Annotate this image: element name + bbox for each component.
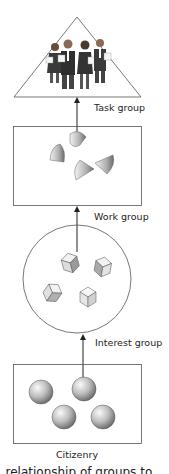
work-group: Work group: [14, 127, 149, 223]
task-group-label: Task group: [93, 102, 145, 113]
task-group-triangle: [14, 17, 141, 97]
citizenry-box: [14, 365, 142, 444]
interest-group: Interest group: [23, 225, 162, 348]
cube-icon: [40, 251, 112, 307]
people-icon: [46, 39, 111, 89]
group-hierarchy-diagram: Task group Work group: [0, 0, 169, 474]
sphere-icon: [29, 377, 115, 429]
interest-group-label: Interest group: [95, 337, 162, 348]
task-group: Task group: [14, 17, 145, 113]
work-group-label: Work group: [94, 211, 149, 222]
cone-icon: [50, 132, 114, 180]
figure-caption-clipped: relationship of groups to...: [0, 463, 169, 474]
citizenry: Citizenry: [14, 365, 142, 461]
citizenry-label: Citizenry: [56, 449, 98, 460]
